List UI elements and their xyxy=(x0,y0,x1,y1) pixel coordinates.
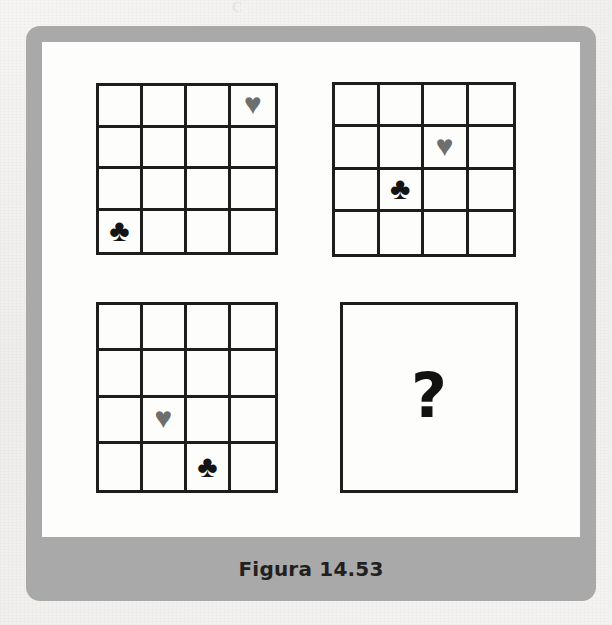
matrix-1-cell-r2c2[interactable] xyxy=(143,128,187,170)
matrix-panel-2[interactable]: ♥♣ xyxy=(332,82,516,257)
matrix-3-cell-r3c3[interactable] xyxy=(187,398,231,444)
matrix-2-cell-r2c2[interactable] xyxy=(380,127,425,169)
club-symbol: ♣ xyxy=(109,215,129,246)
matrix-3-cell-r3c1[interactable] xyxy=(99,398,143,444)
matrix-2-cell-r4c2[interactable] xyxy=(380,212,425,254)
matrix-1-cell-r3c4[interactable] xyxy=(231,169,275,211)
matrix-2-cell-r2c3[interactable]: ♥ xyxy=(424,127,469,169)
figure-caption-label: Figura 14.53 xyxy=(238,557,383,581)
matrix-1-cell-r4c2[interactable] xyxy=(143,211,187,253)
matrix-1-cell-r1c3[interactable] xyxy=(187,86,231,128)
matrix-grid-1: ♥♣ xyxy=(99,86,275,252)
matrix-1-cell-r2c3[interactable] xyxy=(187,128,231,170)
matrix-grid-3: ♥♣ xyxy=(99,305,275,490)
matrix-3-cell-r3c2[interactable]: ♥ xyxy=(143,398,187,444)
matrix-1-cell-r4c4[interactable] xyxy=(231,211,275,253)
matrix-3-cell-r4c4[interactable] xyxy=(231,444,275,490)
answer-panel-inner: ? xyxy=(343,305,515,490)
matrix-1-cell-r3c3[interactable] xyxy=(187,169,231,211)
matrix-3-cell-r4c3[interactable]: ♣ xyxy=(187,444,231,490)
matrix-1-cell-r1c1[interactable] xyxy=(99,86,143,128)
figure-caption-band: Figura 14.53 xyxy=(26,537,596,601)
matrix-grid-2: ♥♣ xyxy=(335,85,513,254)
matrix-3-cell-r4c1[interactable] xyxy=(99,444,143,490)
matrix-panel-1[interactable]: ♥♣ xyxy=(96,83,278,255)
figure-frame: ♥♣ ♥♣ ♥♣ ? Figura 14.53 xyxy=(26,26,596,601)
matrix-1-cell-r2c4[interactable] xyxy=(231,128,275,170)
matrix-2-cell-r3c3[interactable] xyxy=(424,170,469,212)
matrix-2-cell-r1c2[interactable] xyxy=(380,85,425,127)
matrix-3-cell-r3c4[interactable] xyxy=(231,398,275,444)
matrix-2-cell-r3c2[interactable]: ♣ xyxy=(380,170,425,212)
matrix-2-cell-r4c1[interactable] xyxy=(335,212,380,254)
figure-canvas: ♥♣ ♥♣ ♥♣ ? xyxy=(42,42,580,537)
ghost-text-a: C xyxy=(232,0,243,16)
matrix-3-cell-r1c3[interactable] xyxy=(187,305,231,351)
question-mark-icon: ? xyxy=(411,365,447,427)
matrix-2-cell-r2c1[interactable] xyxy=(335,127,380,169)
matrix-2-cell-r1c4[interactable] xyxy=(469,85,514,127)
matrix-1-cell-r3c1[interactable] xyxy=(99,169,143,211)
answer-panel[interactable]: ? xyxy=(340,302,518,493)
matrix-3-cell-r1c1[interactable] xyxy=(99,305,143,351)
heart-symbol: ♥ xyxy=(155,403,173,433)
club-symbol: ♣ xyxy=(197,451,217,482)
matrix-1-cell-r2c1[interactable] xyxy=(99,128,143,170)
matrix-2-cell-r4c3[interactable] xyxy=(424,212,469,254)
matrix-2-cell-r2c4[interactable] xyxy=(469,127,514,169)
matrix-1-cell-r4c3[interactable] xyxy=(187,211,231,253)
matrix-3-cell-r1c2[interactable] xyxy=(143,305,187,351)
matrix-3-cell-r4c2[interactable] xyxy=(143,444,187,490)
heart-symbol: ♥ xyxy=(436,131,454,161)
matrix-2-cell-r3c4[interactable] xyxy=(469,170,514,212)
matrix-1-cell-r1c2[interactable] xyxy=(143,86,187,128)
matrix-3-cell-r2c4[interactable] xyxy=(231,351,275,397)
matrix-1-cell-r1c4[interactable]: ♥ xyxy=(231,86,275,128)
matrix-2-cell-r3c1[interactable] xyxy=(335,170,380,212)
matrix-1-cell-r4c1[interactable]: ♣ xyxy=(99,211,143,253)
matrix-2-cell-r4c4[interactable] xyxy=(469,212,514,254)
matrix-2-cell-r1c3[interactable] xyxy=(424,85,469,127)
matrix-panel-3[interactable]: ♥♣ xyxy=(96,302,278,493)
matrix-3-cell-r2c1[interactable] xyxy=(99,351,143,397)
matrix-3-cell-r1c4[interactable] xyxy=(231,305,275,351)
matrix-2-cell-r1c1[interactable] xyxy=(335,85,380,127)
matrix-1-cell-r3c2[interactable] xyxy=(143,169,187,211)
heart-symbol: ♥ xyxy=(244,89,262,119)
matrix-3-cell-r2c2[interactable] xyxy=(143,351,187,397)
matrix-3-cell-r2c3[interactable] xyxy=(187,351,231,397)
club-symbol: ♣ xyxy=(390,173,410,204)
